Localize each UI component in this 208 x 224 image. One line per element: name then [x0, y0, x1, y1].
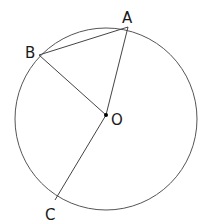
center-dot — [104, 113, 108, 117]
label-A: A — [122, 9, 133, 27]
radius-OC — [55, 115, 106, 200]
radius-OA — [106, 27, 128, 115]
label-O: O — [111, 111, 123, 129]
label-C: C — [45, 206, 55, 224]
label-B: B — [25, 44, 35, 62]
circle — [15, 28, 197, 210]
radius-OB — [39, 55, 106, 115]
circle-diagram: A B C O — [0, 0, 208, 224]
